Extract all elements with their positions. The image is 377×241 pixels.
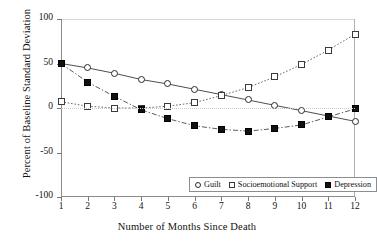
x-tick-label: 3 xyxy=(104,201,124,211)
x-axis-title: Number of Months Since Death xyxy=(0,221,374,232)
data-point-depression xyxy=(84,79,91,86)
open-circle-icon xyxy=(195,182,201,188)
zero-reference-line xyxy=(61,108,355,109)
x-tick-label: 2 xyxy=(78,201,98,211)
plot-area: 100500-50-100 123456789101112 Guilt Soci… xyxy=(61,19,355,197)
y-tick-label: 50 xyxy=(44,57,54,67)
data-point-depression xyxy=(271,125,278,132)
data-point-socioemotional-support xyxy=(191,99,198,106)
x-tick-label: 12 xyxy=(345,201,365,211)
data-point-depression xyxy=(191,122,198,129)
legend-item-guilt: Guilt xyxy=(195,180,221,189)
data-point-socioemotional-support xyxy=(271,73,278,80)
data-point-depression xyxy=(164,115,171,122)
data-point-depression xyxy=(58,60,65,67)
data-point-socioemotional-support xyxy=(218,92,225,99)
data-point-socioemotional-support xyxy=(245,84,252,91)
x-tick-label: 6 xyxy=(185,201,205,211)
x-tick-label: 9 xyxy=(265,201,285,211)
data-point-depression xyxy=(245,128,252,135)
data-point-socioemotional-support xyxy=(58,98,65,105)
data-point-depression xyxy=(218,126,225,133)
legend-label-depression: Depression xyxy=(334,180,371,189)
data-point-guilt xyxy=(191,86,198,93)
x-tick-label: 8 xyxy=(238,201,258,211)
legend-label-guilt: Guilt xyxy=(204,180,221,189)
x-tick-label: 11 xyxy=(318,201,338,211)
legend-item-depression: Depression xyxy=(325,180,371,189)
data-point-socioemotional-support xyxy=(298,61,305,68)
y-tick-label: -100 xyxy=(36,190,53,200)
line-guilt xyxy=(61,64,355,122)
y-tick-label: -50 xyxy=(40,146,53,156)
data-point-depression xyxy=(111,93,118,100)
data-point-guilt xyxy=(352,118,359,125)
filled-square-icon xyxy=(325,182,331,188)
data-point-socioemotional-support xyxy=(325,47,332,54)
x-tick-label: 4 xyxy=(131,201,151,211)
line-depression xyxy=(61,64,355,132)
legend-label-socioemotional-support: Socioemotional Support xyxy=(238,180,317,189)
data-point-guilt xyxy=(111,70,118,77)
x-tick-label: 5 xyxy=(158,201,178,211)
chart-legend: Guilt Socioemotional Support Depression xyxy=(189,177,377,192)
y-tick-label: 100 xyxy=(39,12,53,22)
data-point-depression xyxy=(298,121,305,128)
data-point-socioemotional-support xyxy=(352,31,359,38)
y-tick-label: 0 xyxy=(48,101,53,111)
x-tick-label: 7 xyxy=(211,201,231,211)
y-axis-title: Percent of Baseline Standard Deviation xyxy=(21,0,32,194)
open-square-icon xyxy=(229,182,235,188)
legend-item-socioemotional-support: Socioemotional Support xyxy=(229,180,317,189)
x-tick-label: 10 xyxy=(292,201,312,211)
data-point-guilt xyxy=(138,76,145,83)
data-point-depression xyxy=(325,113,332,120)
x-tick-label: 1 xyxy=(51,201,71,211)
